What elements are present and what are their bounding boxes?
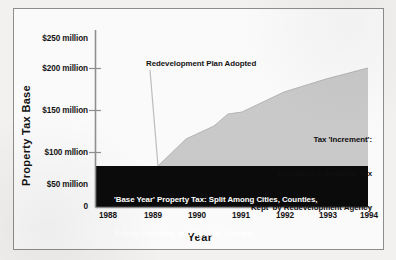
- y-axis-title: Property Tax Base: [20, 85, 33, 186]
- y-tick-label-200: $200 million: [18, 64, 88, 74]
- annotation-base-year: 'Base Year' Property Tax: Split Among Ci…: [114, 172, 317, 260]
- y-tick-label-50: $50 million: [18, 180, 88, 190]
- y-tick-label-250: $250 million: [18, 34, 88, 44]
- y-tick-label-0: 0: [18, 202, 88, 212]
- redevelopment-plan-leader-line: [150, 70, 158, 166]
- annotation-redevelopment-plan-adopted: Redevelopment Plan Adopted: [146, 58, 256, 69]
- chart-figure: Property Tax Base $250 million $200 mill…: [0, 0, 396, 260]
- y-tick-label-100: $100 mllion: [18, 148, 88, 158]
- annotation-tax-increment-line1: Tax 'Increment':: [186, 134, 372, 145]
- y-tick-label-150: $150 million: [18, 106, 88, 116]
- annotation-base-year-line1: 'Base Year' Property Tax: Split Among Ci…: [114, 194, 317, 205]
- annotation-base-year-line2: School Districts, and Special Districts: [114, 228, 317, 239]
